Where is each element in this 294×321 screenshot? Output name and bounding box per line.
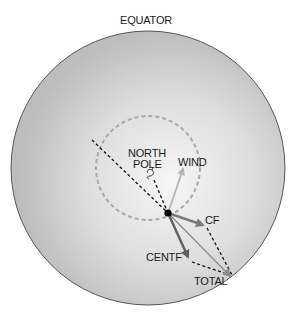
total-label: TOTAL [194,276,227,287]
air-parcel-dot [164,209,171,216]
centf-label: CENTF [146,252,182,263]
cf-label: CF [205,215,219,226]
equator-label: EQUATOR [120,15,172,26]
pole-label: POLE [133,159,162,170]
wind-label: WIND [178,157,207,168]
